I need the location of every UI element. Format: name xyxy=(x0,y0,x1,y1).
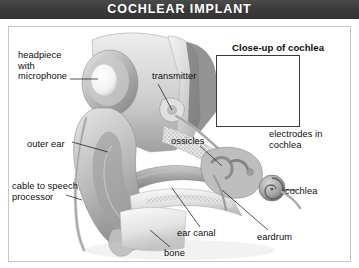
label-outer-ear: outer ear xyxy=(27,139,65,150)
label-eardrum: eardrum xyxy=(257,232,292,243)
cochlear-implant-figure: COCHLEAR IMPLANT xyxy=(0,0,359,268)
label-bone: bone xyxy=(164,248,185,259)
inset-caption: Close-up of cochlea xyxy=(232,43,324,54)
page-title: COCHLEAR IMPLANT xyxy=(0,0,359,19)
cochlea-closeup-panel xyxy=(216,55,300,127)
label-cable-to-speech-processor: cable to speech processor xyxy=(12,181,78,202)
label-ear-canal: ear canal xyxy=(177,228,216,239)
label-cochlea: cochlea xyxy=(285,186,317,197)
label-electrodes-in-cochlea: electrodes in cochlea xyxy=(269,129,322,150)
label-ossicles: ossicles xyxy=(171,136,204,147)
title-bar: COCHLEAR IMPLANT xyxy=(0,0,359,19)
label-transmitter: transmitter xyxy=(152,71,196,82)
label-headpiece-with-microphone: headpiece with microphone xyxy=(18,50,67,82)
